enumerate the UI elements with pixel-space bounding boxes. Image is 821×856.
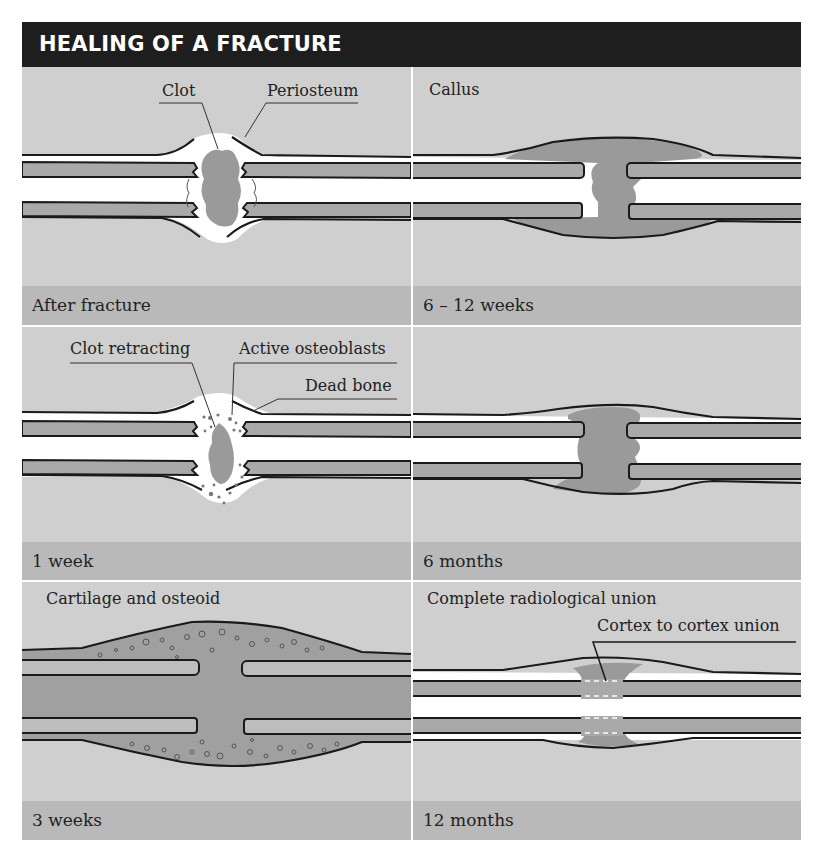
panel-6-12-weeks: Callus 6 – 12 weeks (413, 67, 801, 325)
panel-caption: 6 months (413, 542, 801, 580)
panel-after-fracture: Clot Periosteum After fracture (22, 67, 411, 325)
panel-heading: Complete radiological union (427, 589, 657, 608)
panel-3-weeks: Cartilage and osteoid 3 weeks (22, 582, 411, 840)
panel-6-months: 6 months (413, 327, 801, 580)
figure-title: HEALING OF A FRACTURE (22, 22, 801, 67)
panel-heading: Callus (429, 80, 480, 99)
fracture-healing-figure: HEALING OF A FRACTURE Clo (22, 22, 801, 840)
panel-caption: 3 weeks (22, 801, 411, 840)
panel-caption: After fracture (22, 286, 411, 325)
panel-heading: Cartilage and osteoid (46, 589, 220, 608)
panel-12-months: Complete radiological union Cortex to co… (413, 582, 801, 840)
panel-caption: 6 – 12 weeks (413, 286, 801, 325)
callout-periosteum: Periosteum (267, 81, 359, 100)
panel-1-week: Clot retracting Active osteoblasts Dead … (22, 327, 411, 580)
callout-clot-retracting: Clot retracting (70, 339, 190, 358)
callout-active-osteoblasts: Active osteoblasts (239, 339, 386, 358)
callout-cortex-to-cortex-union: Cortex to cortex union (597, 616, 780, 635)
panel-caption: 1 week (22, 542, 411, 580)
callout-clot: Clot (162, 81, 195, 100)
panel-caption: 12 months (413, 801, 801, 840)
callout-dead-bone: Dead bone (305, 376, 392, 395)
